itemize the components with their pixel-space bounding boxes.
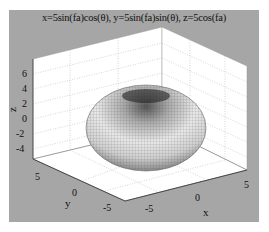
y-tick-neg5: -5 bbox=[103, 203, 111, 213]
y-tick-0: 0 bbox=[72, 188, 77, 198]
z-axis-label: z bbox=[7, 107, 18, 112]
y-tick-5: 5 bbox=[35, 172, 40, 182]
z-tick-4: 4 bbox=[22, 84, 27, 94]
x-axis-label: x bbox=[203, 207, 209, 218]
axes-3d bbox=[0, 0, 269, 232]
z-tick-6: 6 bbox=[22, 69, 27, 79]
x-tick-neg5: -5 bbox=[145, 204, 153, 214]
z-tick-0: 0 bbox=[22, 114, 27, 124]
x-tick-0: 0 bbox=[195, 193, 200, 203]
z-tick-2: 2 bbox=[22, 99, 27, 109]
chart-title: x=5sin(fa)cos(θ), y=5sin(fa)sin(θ), z=5c… bbox=[9, 12, 259, 23]
y-axis-label: y bbox=[65, 198, 71, 209]
x-tick-5: 5 bbox=[244, 180, 249, 190]
z-tick-neg4: -4 bbox=[16, 144, 24, 154]
z-tick-neg2: -2 bbox=[16, 129, 24, 139]
